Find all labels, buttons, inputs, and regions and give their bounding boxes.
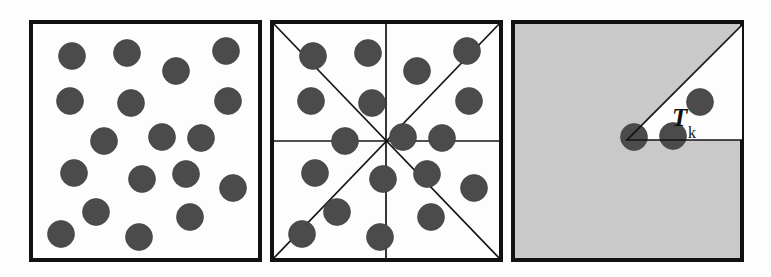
data-point xyxy=(83,199,110,226)
data-point xyxy=(367,224,394,251)
data-point xyxy=(213,38,240,65)
data-point xyxy=(298,88,325,115)
data-point xyxy=(118,90,145,117)
highlighted-wedge-panel: T k xyxy=(513,22,742,260)
data-point xyxy=(687,89,714,116)
data-point xyxy=(289,221,316,248)
data-point xyxy=(414,161,441,188)
data-point xyxy=(57,88,84,115)
point-pattern-panel xyxy=(31,22,260,260)
data-point xyxy=(456,88,483,115)
data-point xyxy=(163,58,190,85)
data-point xyxy=(126,224,153,251)
data-point xyxy=(390,124,417,151)
data-point xyxy=(302,160,329,187)
data-point xyxy=(220,175,247,202)
data-point xyxy=(429,125,456,152)
data-point xyxy=(332,128,359,155)
data-point xyxy=(461,175,488,202)
data-point xyxy=(454,38,481,65)
data-point xyxy=(188,125,215,152)
data-point xyxy=(359,90,386,117)
data-point xyxy=(355,40,382,67)
data-point xyxy=(91,128,118,155)
three-panel-figure: T k xyxy=(0,0,771,277)
data-point xyxy=(114,40,141,67)
data-point xyxy=(300,43,327,70)
wedge-label-subscript-k: k xyxy=(688,124,696,141)
data-point xyxy=(129,166,156,193)
sector-overlay-panel xyxy=(272,22,501,260)
data-point xyxy=(59,43,86,70)
wedge-label-T: T xyxy=(672,104,689,131)
data-point xyxy=(149,124,176,151)
figure-container: T k xyxy=(0,0,771,277)
data-point xyxy=(177,204,204,231)
data-point xyxy=(61,160,88,187)
data-point xyxy=(324,199,351,226)
data-point xyxy=(418,204,445,231)
data-point xyxy=(621,124,648,151)
data-point xyxy=(215,88,242,115)
data-point xyxy=(173,161,200,188)
data-point xyxy=(404,58,431,85)
data-point xyxy=(48,221,75,248)
data-point xyxy=(370,166,397,193)
